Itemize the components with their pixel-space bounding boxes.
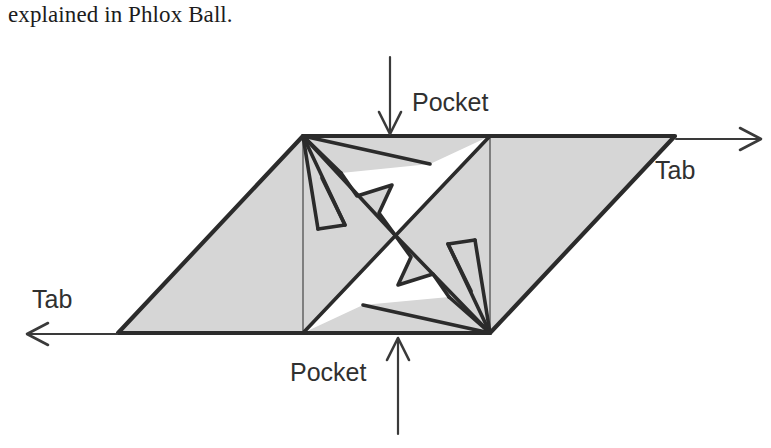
phlox-ball-crease-pattern-figure: [0, 0, 771, 448]
figure-page: explained in Phlox Ball.: [0, 0, 771, 448]
arrow-pocket-bottom-icon: [387, 338, 409, 434]
label-tab-left: Tab: [32, 285, 72, 314]
arrow-tab-right-icon: [676, 128, 761, 150]
arrow-pocket-top-icon: [379, 57, 401, 134]
label-tab-right: Tab: [655, 156, 695, 185]
label-pocket-top: Pocket: [412, 88, 488, 117]
arrow-tab-left-icon: [27, 323, 117, 345]
label-pocket-bottom: Pocket: [290, 358, 366, 387]
